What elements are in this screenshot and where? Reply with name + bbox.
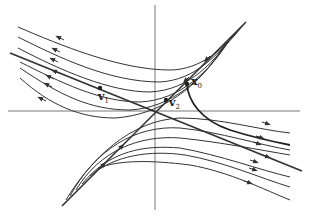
phase-portrait: v1 v2 x0 <box>0 0 312 218</box>
v1-label: v1 <box>98 91 109 105</box>
trajectories-lower <box>66 118 290 200</box>
v2-point <box>164 98 168 102</box>
x0-label: x0 <box>191 76 202 90</box>
v2-eigenline <box>62 22 246 206</box>
v2-label: v2 <box>169 97 180 111</box>
trajectories-upper <box>18 24 244 118</box>
phase-portrait-svg <box>0 0 312 218</box>
x0-trajectory <box>187 84 290 145</box>
x0-point <box>185 82 189 86</box>
